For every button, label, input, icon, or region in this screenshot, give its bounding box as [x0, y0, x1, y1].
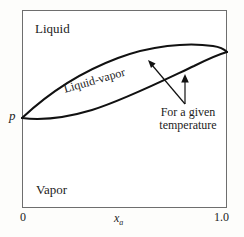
- annotation-text: For a given temperature: [152, 106, 224, 133]
- annotation-line-1: For a given: [152, 106, 224, 119]
- region-label-vapor: Vapor: [36, 183, 67, 198]
- y-axis-label: p: [9, 109, 16, 124]
- annotation-line-2: temperature: [152, 119, 224, 132]
- x-axis-tick-min: 0: [20, 211, 26, 224]
- x-axis-label-subscript: a: [119, 218, 123, 227]
- x-axis-tick-max: 1.0: [214, 211, 229, 224]
- region-label-liquid: Liquid: [35, 22, 70, 37]
- x-axis-label: xa: [114, 212, 123, 228]
- phase-diagram-figure: Liquid Vapor Liquid-vapor For a given te…: [0, 0, 244, 237]
